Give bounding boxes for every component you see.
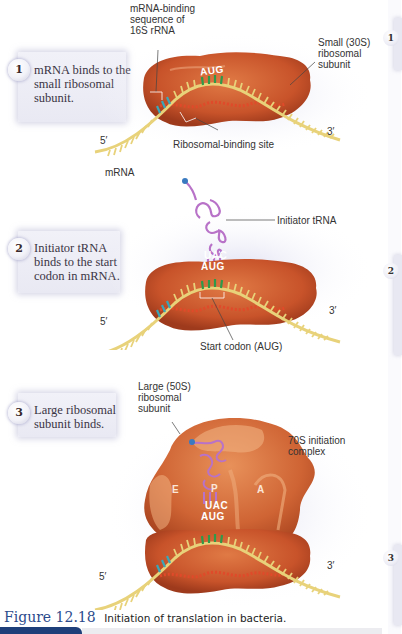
label-start-codon: Start codon (AUG) xyxy=(200,341,282,352)
step-3-anticodon-uac: UAC xyxy=(205,500,228,511)
step-2-illustration xyxy=(0,170,388,350)
label-line: Small (30S) xyxy=(318,37,370,48)
caption-bar-rest xyxy=(82,628,382,634)
label-initiator-trna: Initiator tRNA xyxy=(277,215,336,226)
label-line: subunit xyxy=(318,59,370,70)
label-line: mRNA-binding xyxy=(130,3,195,14)
step-3-three-prime: 3′ xyxy=(327,560,334,571)
label-line: complex xyxy=(288,446,345,457)
site-a-label: A xyxy=(257,484,264,495)
step-2-three-prime: 3′ xyxy=(329,305,336,316)
figure-title: Initiation of translation in bacteria. xyxy=(104,612,286,624)
step-2-five-prime: 5′ xyxy=(100,316,107,327)
step-3-codon-aug: AUG xyxy=(201,511,225,522)
step-3-illustration xyxy=(0,400,388,610)
label-small-subunit: Small (30S) ribosomal subunit xyxy=(318,37,370,70)
label-line: 16S rRNA xyxy=(130,25,195,36)
site-e-label: E xyxy=(172,484,179,495)
label-line: ribosomal xyxy=(318,48,370,59)
step-1-five-prime: 5′ xyxy=(100,135,107,146)
site-p-label: P xyxy=(211,483,218,494)
label-mrna-binding-sequence: mRNA-binding sequence of 16S rRNA xyxy=(130,3,195,36)
step-2-anticodon-uac: UAC xyxy=(204,250,227,261)
step-2-codon-aug: AUG xyxy=(201,261,225,272)
label-line: Large (50S) xyxy=(138,381,191,392)
caption-accent-bar xyxy=(0,627,82,634)
label-70s-initiation-complex: 70S initiation complex xyxy=(288,435,345,457)
figure-number: Figure 12.18 xyxy=(4,609,96,625)
label-line: 70S initiation xyxy=(288,435,345,446)
step-1-three-prime: 3′ xyxy=(327,126,334,137)
label-ribosomal-binding-site: Ribosomal-binding site xyxy=(173,139,274,150)
label-line: ribosomal xyxy=(138,392,191,403)
step-3-five-prime: 5′ xyxy=(99,571,106,582)
label-line: sequence of xyxy=(130,14,195,25)
label-line: subunit xyxy=(138,403,191,414)
label-large-subunit: Large (50S) ribosomal subunit xyxy=(138,381,191,414)
figure-caption: Figure 12.18 Initiation of translation i… xyxy=(4,608,286,626)
